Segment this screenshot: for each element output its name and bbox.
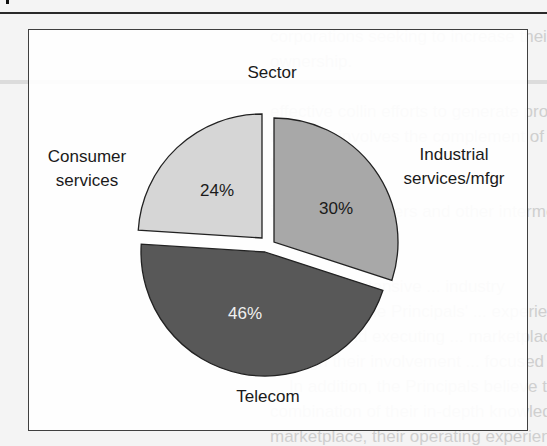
slice-label-telecom: Telecom: [236, 387, 299, 406]
slice-label-consumer-line2: services: [56, 171, 118, 190]
pie-chart: Sector 30% 46% 24% Industrial services/m…: [0, 0, 547, 446]
slice-label-consumer-line1: Consumer: [48, 147, 127, 166]
slice-pct-telecom: 46%: [228, 304, 262, 323]
slice-pct-consumer: 24%: [200, 181, 234, 200]
slice-label-industrial-line2: services/mfgr: [403, 169, 504, 188]
chart-title: Sector: [247, 63, 296, 82]
slice-label-industrial-line1: Industrial: [420, 145, 489, 164]
slice-pct-industrial: 30%: [319, 199, 353, 218]
pie-slice-consumer: [138, 114, 262, 238]
